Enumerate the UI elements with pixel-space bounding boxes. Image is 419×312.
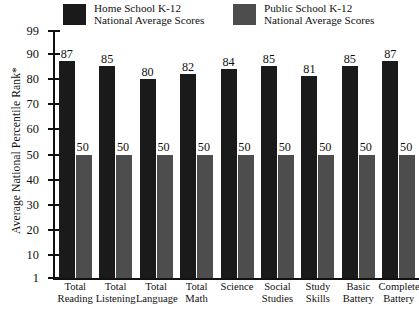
x-axis-category-line: Battery — [338, 293, 378, 305]
legend-swatch-home-school — [63, 4, 86, 25]
legend-item-home-school: Home School K-12 National Average Scores — [63, 3, 204, 26]
y-axis-tick-label: 50 — [27, 148, 39, 160]
y-axis-tick-label: 40 — [27, 174, 39, 186]
bar-public-school: 50 — [399, 155, 415, 279]
y-axis-tick-label: 90 — [27, 47, 39, 59]
x-axis-category-label: SocialStudies — [257, 281, 297, 305]
x-axis-category-line: Math — [176, 293, 216, 305]
x-axis-line — [53, 278, 419, 280]
bar-chart: Home School K-12 National Average Scores… — [0, 0, 419, 312]
x-axis-category-line: Skills — [298, 293, 338, 305]
legend-swatch-public-school — [233, 4, 256, 25]
x-axis-category-line: Battery — [379, 293, 419, 305]
x-axis-category-line: Total — [136, 281, 176, 293]
bar-value-label: 50 — [360, 141, 372, 153]
bar-public-school: 50 — [76, 155, 92, 279]
bar-value-label: 80 — [142, 66, 154, 78]
y-axis-tick-label: 30 — [27, 199, 39, 211]
bar-home-school: 87 — [382, 61, 398, 278]
bar-home-school: 81 — [301, 76, 317, 278]
bar-value-label: 87 — [384, 48, 396, 60]
bar-value-label: 84 — [222, 56, 234, 68]
y-axis-tick-label: 20 — [27, 224, 39, 236]
bar-value-label: 50 — [279, 141, 291, 153]
bar-value-label: 85 — [101, 53, 113, 65]
x-axis-category-line: Complete — [379, 281, 419, 293]
y-axis-tick-label: 70 — [27, 98, 39, 110]
x-axis-category-label: BasicBattery — [338, 281, 378, 305]
bar-public-school: 50 — [278, 155, 294, 279]
x-axis-category-label: TotalReading — [55, 281, 95, 305]
bar-value-label: 50 — [117, 141, 129, 153]
bar-home-school: 85 — [342, 66, 358, 278]
x-axis-category-label: TotalMath — [176, 281, 216, 305]
x-axis-category-line: Studies — [257, 293, 297, 305]
y-axis-title: Average National Percentile Rank* — [10, 31, 23, 271]
x-axis-category-line: Social — [257, 281, 297, 293]
bar-value-label: 50 — [157, 141, 169, 153]
y-axis-tick-label: 10 — [27, 249, 39, 261]
bar-public-school: 50 — [318, 155, 334, 279]
x-axis-category-line: Total — [55, 281, 95, 293]
x-axis-category-line: Listening — [95, 293, 135, 305]
bar-group: 8050 — [140, 31, 173, 278]
bar-group: 8550 — [99, 31, 132, 278]
bar-value-label: 87 — [61, 48, 73, 60]
bar-group: 8250 — [180, 31, 213, 278]
legend-label-home-school-line1: Home School K-12 — [94, 3, 204, 15]
x-axis-category-labels: TotalReadingTotalListeningTotalLanguageT… — [55, 281, 419, 312]
x-axis-category-line: Total — [176, 281, 216, 293]
y-axis-tick-label: 1 — [33, 272, 39, 284]
bar-home-school: 85 — [261, 66, 277, 278]
x-axis-category-label: CompleteBattery — [379, 281, 419, 305]
legend-label-public-school: Public School K-12 National Average Scor… — [264, 3, 374, 26]
legend-item-public-school: Public School K-12 National Average Scor… — [233, 3, 374, 26]
y-axis-tick-label: 80 — [27, 73, 39, 85]
chart-legend: Home School K-12 National Average Scores… — [0, 0, 419, 30]
x-axis-category-line: Reading — [55, 293, 95, 305]
legend-label-home-school: Home School K-12 National Average Scores — [94, 3, 204, 26]
x-axis-category-line: Basic — [338, 281, 378, 293]
bar-public-school: 50 — [116, 155, 132, 279]
y-axis-tick-label: 60 — [27, 123, 39, 135]
bar-home-school: 82 — [180, 74, 196, 278]
bar-home-school: 84 — [221, 69, 237, 278]
bar-group: 8750 — [59, 31, 92, 278]
bar-value-label: 50 — [238, 141, 250, 153]
bar-value-label: 50 — [77, 141, 89, 153]
bar-home-school: 87 — [59, 61, 75, 278]
bar-group: 8750 — [382, 31, 415, 278]
bar-home-school: 85 — [99, 66, 115, 278]
legend-label-public-school-line2: National Average Scores — [264, 15, 374, 27]
legend-label-public-school-line1: Public School K-12 — [264, 3, 374, 15]
plot-area: 110203040506070809099 875085508050825084… — [53, 31, 419, 278]
bar-group: 8450 — [221, 31, 254, 278]
bar-public-school: 50 — [359, 155, 375, 279]
y-axis-tick-label: 99 — [27, 25, 39, 37]
bar-value-label: 50 — [198, 141, 210, 153]
bar-public-school: 50 — [197, 155, 213, 279]
bar-group: 8150 — [301, 31, 334, 278]
bar-value-label: 50 — [319, 141, 331, 153]
x-axis-category-line: Study — [298, 281, 338, 293]
bar-value-label: 50 — [400, 141, 412, 153]
x-axis-category-label: TotalLanguage — [136, 281, 176, 305]
legend-label-home-school-line2: National Average Scores — [94, 15, 204, 27]
bar-public-school: 50 — [157, 155, 173, 279]
bar-home-school: 80 — [140, 79, 156, 278]
bar-groups: 875085508050825084508550815085508750 — [55, 31, 419, 278]
x-axis-category-line: Total — [95, 281, 135, 293]
x-axis-category-line: Language — [136, 293, 176, 305]
x-axis-category-label: TotalListening — [95, 281, 135, 305]
x-axis-category-label: StudySkills — [298, 281, 338, 305]
bar-group: 8550 — [342, 31, 375, 278]
bar-group: 8550 — [261, 31, 294, 278]
bar-value-label: 85 — [263, 53, 275, 65]
bar-value-label: 81 — [303, 63, 315, 75]
x-axis-category-line: Science — [217, 281, 257, 293]
bar-value-label: 82 — [182, 61, 194, 73]
bar-value-label: 85 — [344, 53, 356, 65]
x-axis-category-label: Science — [217, 281, 257, 293]
bar-public-school: 50 — [238, 155, 254, 279]
